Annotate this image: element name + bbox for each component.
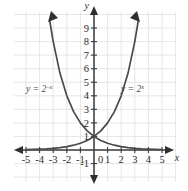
x-tick-label: -2 xyxy=(62,154,71,165)
y-tick-label: 8 xyxy=(84,36,89,47)
y-tick-label: 6 xyxy=(84,63,89,74)
y-tick-label: 2 xyxy=(84,118,89,129)
x-tick-label: 3 xyxy=(132,154,137,165)
x-axis-arrow-left xyxy=(14,146,23,154)
y-tick-label: 4 xyxy=(84,90,90,101)
y-axis-arrow-down xyxy=(90,175,98,184)
x-tick-label: -4 xyxy=(35,154,44,165)
y-axis-arrow-up xyxy=(90,6,98,15)
curve-label-right: y = 2x xyxy=(120,83,144,94)
y-tick-label: 7 xyxy=(84,50,89,61)
x-axis-arrow-right xyxy=(165,146,174,154)
x-axis-name: x xyxy=(174,152,180,163)
x-tick-label: 5 xyxy=(159,154,164,165)
y-tick-label: -1 xyxy=(80,158,89,169)
x-tick-label: 1 xyxy=(105,154,110,165)
curve-label-left: y = 2–x xyxy=(25,83,52,94)
y-tick-label: 3 xyxy=(84,104,89,115)
x-tick-label: 2 xyxy=(119,154,124,165)
y-tick-label: 5 xyxy=(84,77,89,88)
y-axis-name: y xyxy=(84,0,90,11)
x-tick-label: 0 xyxy=(98,154,103,165)
x-tick-label: 4 xyxy=(146,154,152,165)
x-tick-label: -5 xyxy=(22,154,31,165)
graph-canvas: -5-4-3-2-1012345-1123456789 xy y = 2–xy … xyxy=(0,0,188,191)
y-tick-label: 9 xyxy=(84,23,89,34)
exponential-functions-graph: -5-4-3-2-1012345-1123456789 xy y = 2–xy … xyxy=(0,0,188,191)
x-tick-label: -3 xyxy=(49,154,58,165)
y-tick-label: 1 xyxy=(84,131,89,142)
